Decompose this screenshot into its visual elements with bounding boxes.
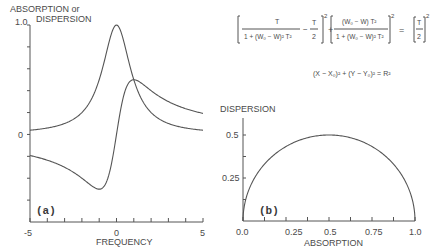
figure: ABSORPTION or DISPERSION 1.0 0 -5 0 5 FR… — [0, 0, 436, 252]
dispersion-curve — [30, 80, 203, 189]
panel-b-ytick-label-0.5: 0.5 — [226, 130, 239, 140]
eq1-minus: − — [303, 25, 308, 34]
panel-b-label: (b) — [259, 205, 279, 217]
eq1-frac2-num: (W₀ − W) T² — [342, 18, 377, 26]
panel-b-ylabel: DISPERSION — [220, 104, 276, 114]
eq1-equals: = — [399, 25, 404, 35]
panel-b-xtick-label-0.75: 0.75 — [365, 227, 383, 237]
absorption-curve — [30, 25, 203, 130]
panel-a-ylabel-line1: ABSORPTION or — [10, 4, 80, 14]
eq1-rhs-num: T — [417, 19, 422, 26]
panel-a-label: (a) — [36, 205, 56, 217]
bracket-right-3 — [423, 17, 425, 42]
eq1-sq-3: 2 — [426, 13, 430, 19]
panel-b-chart: DISPERSION 0.5 0.25 0.0 0.25 0.5 0.75 1.… — [220, 104, 422, 248]
panel-a-ytick-label-1: 1.0 — [15, 17, 28, 27]
eq1-half-den: 2 — [312, 33, 316, 40]
panel-a-ylabel-line2: DISPERSION — [36, 14, 92, 24]
eq1-half-num: T — [312, 19, 317, 26]
bracket-right-2 — [388, 16, 390, 43]
panel-b-xtick-label-0.25: 0.25 — [285, 227, 303, 237]
bracket-right-1 — [321, 16, 323, 43]
eq1-frac1-num: T — [275, 18, 280, 25]
panel-a-ytick-label-0: 0 — [18, 130, 23, 140]
panel-b-xtick-label-0.5: 0.5 — [324, 227, 337, 237]
panel-b-ytick-label-0.25: 0.25 — [222, 173, 240, 183]
panel-b-xtick-label-0: 0.0 — [236, 227, 249, 237]
equation-circle-general: (X − X₀)² + (Y − Y₀)² = R² — [313, 70, 391, 78]
bracket-left-1 — [238, 16, 240, 43]
panel-b-xlabel: ABSORPTION — [304, 238, 363, 248]
eq1-frac2-den: 1 + (W₀ − W)² T² — [336, 33, 385, 41]
eq1-rhs-den: 2 — [417, 33, 421, 40]
bracket-left-3 — [414, 17, 416, 42]
eq1-sq-1: 2 — [324, 13, 328, 19]
equation-circle-lorentzian: T 1 + (W₀ − W)² T² − T 2 2 + (W₀ − W) T²… — [238, 13, 430, 43]
eq1-frac1-den: 1 + (W₀ − W)² T² — [244, 33, 293, 41]
panel-a-chart: ABSORPTION or DISPERSION 1.0 0 -5 0 5 FR… — [10, 4, 205, 247]
panel-a-xtick-label-min: -5 — [24, 228, 32, 238]
panel-b-xtick-label-1.0: 1.0 — [409, 227, 422, 237]
panel-a-xlabel: FREQUENCY — [96, 237, 153, 247]
eq1-sq-2: 2 — [391, 13, 395, 19]
panel-a-xtick-label-max: 5 — [200, 228, 205, 238]
